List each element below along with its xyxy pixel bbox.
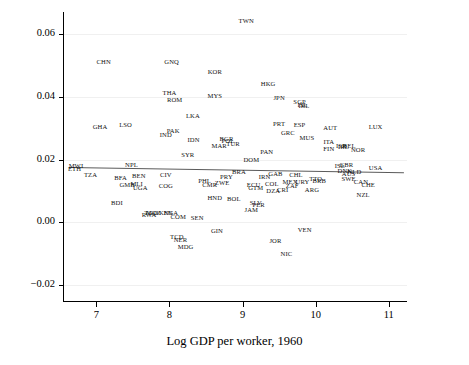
gridline <box>64 285 407 286</box>
y-tick-mark <box>59 222 64 223</box>
y-tick-label: −0.02 <box>9 279 55 289</box>
x-tick-label: 10 <box>304 309 328 320</box>
x-axis-line <box>63 301 407 302</box>
data-point-label: CIV <box>160 170 172 177</box>
data-point-label: MAR <box>211 141 226 148</box>
data-point-label: GIN <box>211 227 223 234</box>
data-point-label: UGA <box>133 184 148 191</box>
data-point-label: FIN <box>323 144 334 151</box>
data-point-label: BEN <box>132 171 146 178</box>
y-tick-label: 0.04 <box>9 91 55 101</box>
y-tick-label: 0.06 <box>9 28 55 38</box>
data-point-label: PAN <box>260 147 273 154</box>
data-point-label: JOR <box>269 236 281 243</box>
x-axis-label: Log GDP per worker, 1960 <box>0 334 469 349</box>
gridline <box>64 97 407 98</box>
y-tick-mark <box>59 97 64 98</box>
data-point-label: USA <box>369 163 383 170</box>
data-point-label: ARG <box>305 185 319 192</box>
x-tick-mark <box>169 302 170 307</box>
data-point-label: LSO <box>119 121 132 128</box>
data-point-label: IDN <box>188 136 200 143</box>
data-point-label: SEN <box>191 213 204 220</box>
y-axis-line <box>63 12 64 302</box>
data-point-label: ROM <box>167 96 182 103</box>
data-point-label: CHE <box>362 181 376 188</box>
data-point-label: COM <box>171 212 186 219</box>
x-tick-mark <box>389 302 390 307</box>
data-point-label: BRA <box>232 168 246 175</box>
data-point-label: CHN <box>97 57 111 64</box>
x-tick-mark <box>96 302 97 307</box>
data-point-label: GRC <box>281 128 295 135</box>
data-point-label: NIC <box>281 250 293 257</box>
gridline <box>64 34 407 35</box>
data-point-label: JPN <box>273 94 284 101</box>
data-point-label: TUR <box>226 140 240 147</box>
x-tick-mark <box>243 302 244 307</box>
data-point-label: GHA <box>93 122 108 129</box>
x-tick-label: 8 <box>157 309 181 320</box>
data-point-label: BFA <box>114 173 127 180</box>
x-tick-label: 11 <box>377 309 401 320</box>
data-point-label: BRB <box>313 177 327 184</box>
data-point-label: BOL <box>227 194 241 201</box>
y-tick-label: 0.02 <box>9 154 55 164</box>
data-point-label: VEN <box>298 226 312 233</box>
data-point-label: NZL <box>357 190 370 197</box>
scatter-plot-figure: 0.060.040.020.00−0.02 7891011 TWNCHNGNQK… <box>0 0 469 365</box>
y-tick-mark <box>59 285 64 286</box>
data-point-label: AUT <box>323 123 337 130</box>
data-point-label: GNQ <box>164 58 179 65</box>
data-point-label: ETH <box>68 165 81 172</box>
data-point-label: IND <box>160 130 172 137</box>
gridline <box>64 160 407 161</box>
data-point-label: IRL <box>298 102 309 109</box>
data-point-label: LKA <box>186 111 200 118</box>
y-tick-label: 0.00 <box>9 216 55 226</box>
data-point-label: BDI <box>111 199 123 206</box>
data-point-label: COG <box>159 182 173 189</box>
y-tick-mark <box>59 160 64 161</box>
x-tick-mark <box>316 302 317 307</box>
data-point-label: JAM <box>245 205 259 212</box>
data-point-label: NOR <box>351 145 365 152</box>
data-point-label: MUS <box>300 134 315 141</box>
data-point-label: MDG <box>178 243 194 250</box>
y-tick-mark <box>59 34 64 35</box>
data-point-label: HKG <box>261 80 276 87</box>
data-point-label: KOR <box>208 67 222 74</box>
data-point-label: GTM <box>248 184 263 191</box>
x-tick-label: 9 <box>231 309 255 320</box>
data-point-label: CMR <box>202 181 217 188</box>
data-point-label: NPL <box>125 161 138 168</box>
x-tick-label: 7 <box>84 309 108 320</box>
data-point-label: TZA <box>84 170 97 177</box>
data-point-label: PRT <box>273 119 285 126</box>
data-point-label: MYS <box>207 92 222 99</box>
data-point-label: LUX <box>369 122 383 129</box>
data-point-label: DZA <box>266 187 280 194</box>
data-point-label: SYR <box>181 150 194 157</box>
gridline <box>64 222 407 223</box>
data-point-label: NER <box>174 235 188 242</box>
data-point-label: IRN <box>259 172 271 179</box>
data-point-label: HND <box>207 193 222 200</box>
data-point-label: DOM <box>243 155 259 162</box>
data-point-label: ESP <box>294 121 306 128</box>
data-point-label: TWN <box>239 16 254 23</box>
